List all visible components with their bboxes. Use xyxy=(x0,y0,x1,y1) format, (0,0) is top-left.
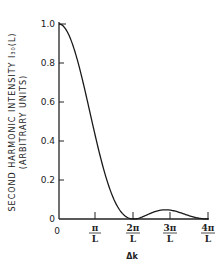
y-axis-label: SECOND HARMONIC INTENSITY I₃₀(L) (ARBITR… xyxy=(8,33,28,212)
svg-text:SECOND HARMONIC INTENSITY I₃₀(: SECOND HARMONIC INTENSITY I₃₀(L) xyxy=(8,33,17,212)
y-tick-label: 0.4 xyxy=(41,136,56,146)
x-tick-label: 0 xyxy=(54,226,60,236)
x-tick-label-den: L xyxy=(130,234,137,244)
x-tick-label-num: 4π xyxy=(202,223,215,233)
y-tick-label: 0.8 xyxy=(41,58,56,68)
y-tick-label: 0.6 xyxy=(41,97,56,107)
x-tick-label-num: π xyxy=(92,223,99,233)
y-tick-label: 0 xyxy=(49,214,55,224)
x-axis-label: Δk xyxy=(126,252,138,261)
y-tick-label: 0.2 xyxy=(41,175,55,185)
x-tick-label-den: L xyxy=(167,234,174,244)
y-tick-label: 1.0 xyxy=(41,19,56,29)
x-tick-label-num: 3π xyxy=(164,223,177,233)
x-tick-label-den: L xyxy=(205,234,212,244)
x-tick-label-num: 2π xyxy=(127,223,140,233)
sinc-squared-curve xyxy=(59,24,208,219)
y-ticks: 0 0.2 0.4 0.6 0.8 1.0 xyxy=(41,19,66,224)
svg-text:(ARBITRARY UNITS): (ARBITRARY UNITS) xyxy=(19,75,28,169)
x-tick-label-den: L xyxy=(92,234,99,244)
chart-canvas: 0 0.2 0.4 0.6 0.8 1.0 0 π L 2π L 3π L 4π… xyxy=(0,0,224,269)
